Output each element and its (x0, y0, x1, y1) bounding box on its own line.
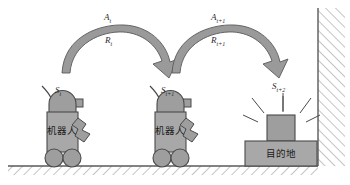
reward-2-sub: t+1 (217, 41, 226, 47)
svg-text:St: St (55, 85, 62, 97)
robot-1-label: 机器人 (47, 125, 77, 136)
svg-text:St+2: St+2 (272, 81, 285, 93)
robot-1-wheel-left (45, 149, 63, 167)
robot-2: 机器人 (150, 86, 198, 167)
robot-1-head (49, 91, 76, 114)
action-label-1: At (103, 12, 112, 24)
state-label-3: St+2 (272, 81, 285, 111)
svg-text:Rt: Rt (104, 35, 113, 47)
robot-1: 机器人 (42, 86, 90, 167)
svg-text:Rt+1: Rt+1 (210, 35, 225, 47)
state-3-sub: t+2 (277, 87, 286, 93)
robot-2-wheel-right (171, 149, 189, 167)
svg-text:St+1: St+1 (161, 85, 174, 97)
action-label-2: At+1 (210, 12, 225, 24)
state-label-1: St (55, 85, 62, 97)
robot-2-label: 机器人 (155, 125, 185, 136)
reward-1-sub: t (111, 41, 113, 47)
reward-label-2: Rt+1 (210, 35, 225, 47)
destination-top-block (267, 115, 295, 141)
transition-arrow-2 (172, 25, 288, 78)
action-1-sub: t (110, 18, 112, 24)
state-label-2: St+1 (161, 85, 174, 97)
state-2-sub: t+1 (166, 91, 175, 97)
robot-2-wheel-left (153, 149, 171, 167)
robot-1-wheel-right (63, 149, 81, 167)
destination-label: 目的地 (266, 148, 296, 159)
robot-rl-diagram: At Rt At+1 Rt+1 (0, 0, 350, 185)
svg-text:At+1: At+1 (210, 12, 225, 24)
destination: 目的地 (245, 115, 317, 166)
wall-hatched (318, 8, 345, 166)
transition-arrow-1 (62, 25, 178, 78)
svg-text:At: At (103, 12, 112, 24)
action-2-sub: t+1 (217, 18, 226, 24)
reward-label-1: Rt (104, 35, 113, 47)
